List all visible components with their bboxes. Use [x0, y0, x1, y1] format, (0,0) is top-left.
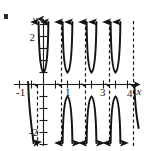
- branch-up-x3: [111, 22, 121, 73]
- branch-up-x2: [87, 22, 97, 73]
- x-tick-label-4: 4: [127, 87, 133, 99]
- y-tick-label-neg2: -2: [29, 126, 38, 138]
- stray-speck-mark: [4, 14, 8, 19]
- lower-branches: [28, 82, 139, 143]
- y-tick-label-2: 2: [30, 31, 36, 43]
- x-tick-label-3: 3: [100, 86, 106, 98]
- upper-branches: [39, 22, 121, 73]
- branch-down-x1: [63, 97, 73, 144]
- secant-graph-svg: -1 1 3 4 2 -2 y x: [0, 0, 148, 151]
- branch-down-x2: [87, 97, 97, 144]
- y-axis-label: y: [32, 13, 38, 25]
- branch-down-x3: [111, 97, 121, 144]
- x-tick-label-1: 1: [65, 86, 71, 98]
- x-tick-label-neg1: -1: [16, 86, 25, 98]
- math-graph-figure: -1 1 3 4 2 -2 y x: [0, 0, 148, 151]
- branch-up-x1: [63, 22, 73, 73]
- x-axis-label: x: [136, 85, 142, 97]
